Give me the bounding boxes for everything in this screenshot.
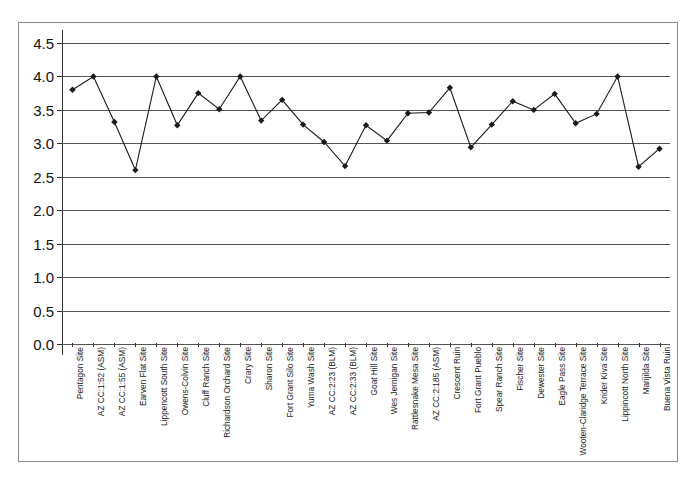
data-point-marker bbox=[174, 122, 180, 128]
x-axis-tick bbox=[219, 343, 220, 347]
x-axis-tick-label: Richardson Orchard Site bbox=[223, 347, 232, 438]
x-axis-tick bbox=[471, 343, 472, 347]
x-axis-tick-label: AZ CC:2:185 (ASM) bbox=[432, 347, 441, 421]
data-point-marker bbox=[90, 73, 96, 79]
x-axis-tick bbox=[513, 343, 514, 347]
x-axis-tick bbox=[135, 343, 136, 347]
data-point-marker bbox=[132, 167, 138, 173]
x-axis-tick-label: Wooten-Claridge Terrace Site bbox=[579, 347, 588, 456]
x-axis-tick bbox=[114, 343, 115, 347]
x-axis-tick bbox=[261, 343, 262, 347]
chart-figure: 0.00.51.01.52.02.53.03.54.04.5 Pentagon … bbox=[0, 0, 695, 489]
x-axis-tick-label: Cluff Ranch Site bbox=[202, 347, 211, 407]
x-axis-tick-label: Fischer Site bbox=[516, 347, 525, 391]
x-axis-tick-label: AZ CC:1:55 (ASM) bbox=[118, 347, 127, 416]
x-axis-tick-labels: Pentagon SiteAZ CC:1:52 (ASM)AZ CC:1:55 … bbox=[62, 347, 670, 459]
x-axis-tick-label: Lippencott South Site bbox=[160, 347, 169, 426]
x-axis-tick-label: AZ CC:2:23 (BLM) bbox=[328, 347, 337, 415]
x-axis-tick bbox=[345, 343, 346, 347]
x-axis-tick bbox=[324, 343, 325, 347]
data-point-marker bbox=[111, 119, 117, 125]
x-axis-tick-label: Buena Vista Ruin bbox=[663, 347, 672, 411]
x-axis-tick bbox=[597, 343, 598, 347]
x-axis-tick bbox=[555, 343, 556, 347]
x-axis-tick bbox=[618, 343, 619, 347]
data-point-marker bbox=[593, 111, 599, 117]
x-axis-tick bbox=[408, 343, 409, 347]
data-point-marker bbox=[614, 73, 620, 79]
x-axis-tick-label: Crary Site bbox=[244, 347, 253, 384]
x-axis-tick bbox=[660, 343, 661, 347]
x-axis-tick bbox=[240, 343, 241, 347]
x-axis-tick-label: Rattlesnake Mesa Site bbox=[411, 347, 420, 430]
x-axis-tick bbox=[450, 343, 451, 347]
x-axis-tick bbox=[387, 343, 388, 347]
data-point-marker bbox=[69, 87, 75, 93]
x-axis-tick-label: Goat Hill Site bbox=[370, 347, 379, 395]
x-axis-tick-label: Pentagon Site bbox=[76, 347, 85, 399]
x-axis-tick-label: Fort Grant Silo Site bbox=[286, 347, 295, 418]
x-axis-tick bbox=[429, 343, 430, 347]
x-axis-tick-label: Yuma Wash Site bbox=[307, 347, 316, 408]
x-axis-tick-label: AZ CC:2:33 (BLM) bbox=[349, 347, 358, 415]
x-axis-tick bbox=[198, 343, 199, 347]
x-axis-tick-label: Spear Ranch Site bbox=[495, 347, 504, 412]
x-axis-tick-label: Crescent Ruin bbox=[453, 347, 462, 400]
x-axis-tick-label: Owens-Colvin Site bbox=[181, 347, 190, 415]
x-axis-tick bbox=[303, 343, 304, 347]
x-axis-tick bbox=[282, 343, 283, 347]
x-axis-tick-label: Sharon Site bbox=[265, 347, 274, 390]
x-axis-tick-label: Dewester Site bbox=[537, 347, 546, 399]
data-point-marker bbox=[237, 73, 243, 79]
x-axis-tick bbox=[534, 343, 535, 347]
data-point-marker bbox=[153, 73, 159, 79]
x-axis-tick bbox=[72, 343, 73, 347]
x-axis-tick-label: Fort Grant Pueblo bbox=[474, 347, 483, 413]
x-axis-tick-label: AZ CC:1:52 (ASM) bbox=[97, 347, 106, 416]
x-axis-tick bbox=[492, 343, 493, 347]
x-axis-tick-label: Eagle Pass Site bbox=[558, 347, 567, 406]
x-axis-tick bbox=[156, 343, 157, 347]
x-axis-tick bbox=[639, 343, 640, 347]
x-axis-tick-label: Krider Kiva Site bbox=[600, 347, 609, 404]
x-axis-tick bbox=[576, 343, 577, 347]
x-axis-tick-label: Marijilda Site bbox=[642, 347, 651, 395]
x-axis-tick bbox=[93, 343, 94, 347]
x-axis-tick-label: Earven Flat Site bbox=[139, 347, 148, 406]
x-axis-tick bbox=[366, 343, 367, 347]
x-axis-tick-label: Wes Jernigan Site bbox=[390, 347, 399, 414]
x-axis-tick bbox=[177, 343, 178, 347]
x-axis-tick-label: Lippincott North Site bbox=[621, 347, 630, 422]
